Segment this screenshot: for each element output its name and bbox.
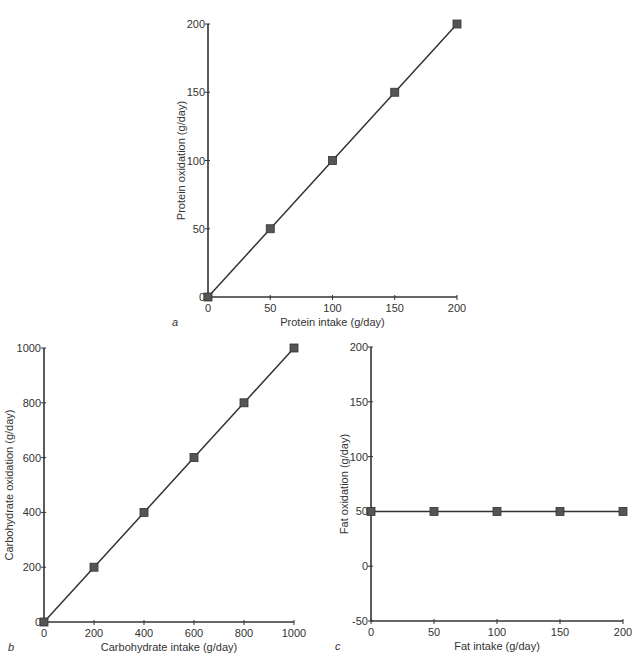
panel-label: c xyxy=(335,640,341,652)
y-tick-label: -50 xyxy=(352,615,368,627)
x-tick-label: 200 xyxy=(614,626,632,638)
y-tick-label: 150 xyxy=(350,396,368,408)
y-tick-label: 400 xyxy=(23,506,41,518)
x-tick-label: 0 xyxy=(41,627,47,639)
data-point-marker xyxy=(90,563,98,571)
y-tick-label: 100 xyxy=(350,451,368,463)
y-axis-title: Fat oxidation (g/day) xyxy=(338,434,350,534)
x-axis-title: Carbohydrate intake (g/day) xyxy=(101,641,237,653)
x-tick-label: 50 xyxy=(264,302,276,314)
data-point-marker xyxy=(430,507,438,515)
chart-a: 050100150200050100150200Protein intake (… xyxy=(172,18,466,328)
y-axis-title: Protein oxidation (g/day) xyxy=(175,101,187,220)
y-tick-label: 150 xyxy=(187,86,205,98)
data-point-marker xyxy=(140,508,148,516)
y-tick-label: 100 xyxy=(187,155,205,167)
y-tick-label: 1000 xyxy=(17,342,41,354)
x-tick-label: 150 xyxy=(551,626,569,638)
data-point-marker xyxy=(290,344,298,352)
x-tick-label: 0 xyxy=(205,302,211,314)
data-point-marker xyxy=(619,507,627,515)
data-point-marker xyxy=(556,507,564,515)
x-axis-title: Protein intake (g/day) xyxy=(280,316,385,328)
y-tick-label: 600 xyxy=(23,452,41,464)
x-tick-label: 100 xyxy=(323,302,341,314)
x-tick-label: 800 xyxy=(235,627,253,639)
y-tick-label: 50 xyxy=(193,223,205,235)
x-tick-label: 1000 xyxy=(282,627,306,639)
x-tick-label: 600 xyxy=(185,627,203,639)
y-tick-label: 0 xyxy=(362,560,368,572)
y-tick-label: 200 xyxy=(350,341,368,353)
panel-label: b xyxy=(8,641,14,653)
x-tick-label: 200 xyxy=(448,302,466,314)
data-point-marker xyxy=(40,618,48,626)
chart-b: 0200400600800100002004006008001000Carboh… xyxy=(3,342,306,653)
y-tick-label: 50 xyxy=(356,505,368,517)
x-tick-label: 150 xyxy=(386,302,404,314)
figure-canvas: 050100150200050100150200Protein intake (… xyxy=(0,0,642,659)
data-point-marker xyxy=(453,20,461,28)
x-tick-label: 50 xyxy=(428,626,440,638)
y-tick-label: 200 xyxy=(23,561,41,573)
y-axis-title: Carbohydrate oxidation (g/day) xyxy=(3,409,15,560)
panel-label: a xyxy=(172,316,178,328)
data-point-marker xyxy=(329,157,337,165)
data-point-marker xyxy=(391,88,399,96)
x-tick-label: 100 xyxy=(488,626,506,638)
x-tick-label: 400 xyxy=(135,627,153,639)
data-point-marker xyxy=(204,293,212,301)
y-tick-label: 200 xyxy=(187,18,205,30)
data-point-marker xyxy=(367,507,375,515)
data-point-marker xyxy=(493,507,501,515)
data-point-marker xyxy=(266,225,274,233)
data-point-marker xyxy=(190,454,198,462)
y-tick-label: 800 xyxy=(23,397,41,409)
chart-c: 050100150200-50050100150200Fat intake (g… xyxy=(335,341,632,652)
series-line xyxy=(44,348,294,622)
x-tick-label: 0 xyxy=(368,626,374,638)
x-axis-title: Fat intake (g/day) xyxy=(454,640,540,652)
x-tick-label: 200 xyxy=(85,627,103,639)
data-point-marker xyxy=(240,399,248,407)
